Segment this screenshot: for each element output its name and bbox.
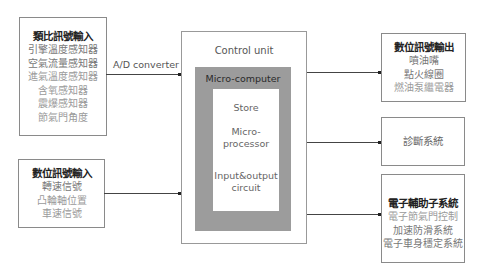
electronic-aux-item: 加速防滑系統 [393, 224, 453, 238]
processor-label-line1: Micro- [231, 126, 260, 138]
analog-input-item: 震爆感知器 [38, 97, 88, 111]
digital-input-item: 轉速信號 [42, 180, 82, 194]
analog-input-box: 類比訊號輸入 引擎溫度感知器 空氣流量感知器 進氣溫度感知器 含氧感知器 震爆感… [19, 17, 107, 136]
analog-input-item: 節氣門角度 [38, 111, 88, 125]
analog-to-control-line [106, 74, 181, 75]
analog-input-title: 類比訊號輸入 [33, 29, 93, 43]
analog-input-item: 空氣流量感知器 [28, 57, 98, 71]
store-label: Store [233, 102, 258, 114]
electronic-aux-item: 電子車身穩定系統 [383, 237, 463, 251]
control-to-diagnosis-line [307, 142, 381, 143]
digital-output-title: 數位訊號輸出 [394, 40, 454, 54]
digital-output-item: 點火線圈 [404, 68, 444, 82]
processor-label-line2: processor [223, 138, 269, 150]
control-to-aux-line [307, 214, 381, 215]
electronic-aux-box: 電子輔助子系統 電子節氣門控制 加速防滑系統 電子車身穩定系統 [381, 174, 465, 263]
io-circuit-label-line2: circuit [231, 182, 260, 194]
diagnosis-title: 診斷系統 [403, 135, 443, 149]
micro-computer-title: Micro-computer [206, 73, 281, 84]
ad-converter-label: A/D converter [113, 59, 179, 70]
digital-output-item: 燃油泵繼電器 [394, 81, 454, 95]
control-unit-title: Control unit [215, 45, 274, 56]
control-to-digital-output-line [307, 72, 381, 73]
digital-output-box: 數位訊號輸出 噴油嘴 點火線圈 燃油泵繼電器 [381, 33, 466, 102]
micro-computer-inner: Store Micro- processor Input&output circ… [213, 89, 279, 211]
electronic-aux-title: 電子輔助子系統 [388, 196, 458, 210]
io-circuit-label-line1: Input&output [214, 170, 277, 182]
digital-input-box: 數位訊號輸入 轉速信號 凸輪軸位置 車速信號 [18, 159, 105, 228]
digital-input-item: 凸輪軸位置 [37, 194, 87, 208]
micro-computer-box: Micro-computer Store Micro- processor In… [195, 67, 291, 231]
analog-input-item: 含氧感知器 [38, 84, 88, 98]
electronic-aux-item: 電子節氣門控制 [388, 210, 458, 224]
diagnosis-box: 診斷系統 [381, 117, 465, 166]
analog-input-item: 進氣溫度感知器 [28, 70, 98, 84]
control-unit-box: Control unit Micro-computer Store Micro-… [181, 31, 307, 244]
analog-input-item: 引擎溫度感知器 [28, 43, 98, 57]
digital-input-title: 數位訊號輸入 [32, 166, 92, 180]
figure-caption-cutoff [200, 268, 320, 276]
digital-to-control-line [104, 193, 181, 194]
digital-output-item: 噴油嘴 [409, 54, 439, 68]
digital-input-item: 車速信號 [42, 207, 82, 221]
